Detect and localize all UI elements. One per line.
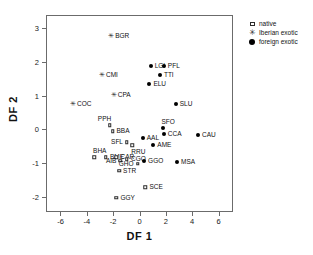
square-marker-icon <box>115 196 119 200</box>
square-marker-icon <box>125 141 129 145</box>
y-tick-mark <box>42 163 46 164</box>
circle-marker-icon <box>174 102 178 106</box>
x-tick-label: 6 <box>216 217 220 226</box>
square-marker-icon <box>144 186 148 190</box>
square-marker-icon <box>117 169 121 173</box>
x-tick-label: 0 <box>137 217 141 226</box>
data-point-label: MSA <box>181 159 195 166</box>
y-tick-label: -2 <box>32 192 39 201</box>
data-point-label: COC <box>77 101 91 108</box>
data-point-label: BHA <box>93 148 106 155</box>
circle-marker-icon <box>158 73 162 77</box>
data-point-label: GGY <box>120 195 134 202</box>
data-point-label: CCA <box>168 131 182 138</box>
x-tick-mark <box>113 212 114 216</box>
data-point-label: TTI <box>164 72 174 79</box>
data-point-label: SFO <box>162 119 175 126</box>
star-marker-icon: ✳ <box>99 72 105 78</box>
star-marker-icon: ✳ <box>111 92 117 98</box>
legend-item: native <box>247 19 298 28</box>
plot-frame <box>46 15 233 212</box>
x-tick-mark <box>219 212 220 216</box>
circle-marker-icon <box>175 160 179 164</box>
circle-marker-icon <box>141 136 145 140</box>
square-marker-icon <box>108 124 112 128</box>
legend-item-label: Iberian exotic <box>259 28 298 37</box>
circle-marker-icon <box>149 64 153 68</box>
y-tick-mark <box>42 62 46 63</box>
data-point-label: STR <box>123 168 136 175</box>
square-icon <box>247 22 257 26</box>
x-tick-label: 4 <box>190 217 194 226</box>
data-point-label: CMI <box>106 72 118 79</box>
x-tick-mark <box>140 212 141 216</box>
legend: native✳Iberian exoticforeign exotic <box>247 19 298 46</box>
data-point-label: GGO <box>148 158 163 165</box>
star-marker-icon: ✳ <box>70 101 76 107</box>
legend-item: ✳Iberian exotic <box>247 28 298 37</box>
circle-marker-icon <box>142 159 146 163</box>
y-tick-label: 0 <box>35 125 39 134</box>
data-point-label: AIB <box>106 158 116 165</box>
x-tick-label: -2 <box>110 217 117 226</box>
x-axis-title: DF 1 <box>46 230 233 242</box>
data-point-label: CAU <box>202 132 216 139</box>
y-tick-label: 1 <box>35 91 39 100</box>
y-tick-label: -1 <box>32 159 39 168</box>
circle-marker-icon <box>162 132 166 136</box>
circle-marker-icon <box>196 133 200 137</box>
legend-item-label: foreign exotic <box>259 37 298 46</box>
data-point-label: SFL <box>111 139 123 146</box>
x-tick-mark <box>60 212 61 216</box>
y-tick-mark <box>42 96 46 97</box>
data-point-label: AME <box>157 142 171 149</box>
filled-circle-icon <box>247 39 257 45</box>
x-tick-label: 2 <box>164 217 168 226</box>
circle-marker-icon <box>151 143 155 147</box>
legend-item-label: native <box>259 19 276 28</box>
data-point-label: SCE <box>149 184 162 191</box>
data-point-label: SLU <box>180 101 193 108</box>
data-point-label: PPH <box>98 116 111 123</box>
star-marker-icon: ✳ <box>108 33 114 39</box>
square-marker-icon <box>131 144 135 148</box>
data-point-label: CPA <box>118 92 131 99</box>
star-icon: ✳ <box>247 29 257 37</box>
square-marker-icon <box>92 155 96 159</box>
x-tick-label: -4 <box>83 217 90 226</box>
x-tick-mark <box>166 212 167 216</box>
circle-marker-icon <box>147 82 151 86</box>
y-axis-title: DF 2 <box>7 74 19 144</box>
x-tick-mark <box>192 212 193 216</box>
y-tick-label: 3 <box>35 24 39 33</box>
circle-marker-icon <box>161 126 165 130</box>
x-tick-mark <box>87 212 88 216</box>
circle-marker-icon <box>162 64 166 68</box>
data-point-label: AAL <box>147 135 159 142</box>
data-point-label: ELU <box>153 81 166 88</box>
x-tick-label: -6 <box>57 217 64 226</box>
y-tick-mark <box>42 197 46 198</box>
y-tick-mark <box>42 28 46 29</box>
square-marker-icon <box>136 162 140 166</box>
y-tick-label: 2 <box>35 58 39 67</box>
data-point-label: BGR <box>115 33 129 40</box>
scatter-plot-figure: -6-4-202463210-1-2BBAPPHSFLRRUBHABMECARA… <box>0 0 313 255</box>
legend-item: foreign exotic <box>247 37 298 46</box>
y-tick-mark <box>42 129 46 130</box>
data-point-label: PFL <box>168 63 180 70</box>
square-marker-icon <box>111 129 115 133</box>
data-point-label: BBA <box>117 128 130 135</box>
